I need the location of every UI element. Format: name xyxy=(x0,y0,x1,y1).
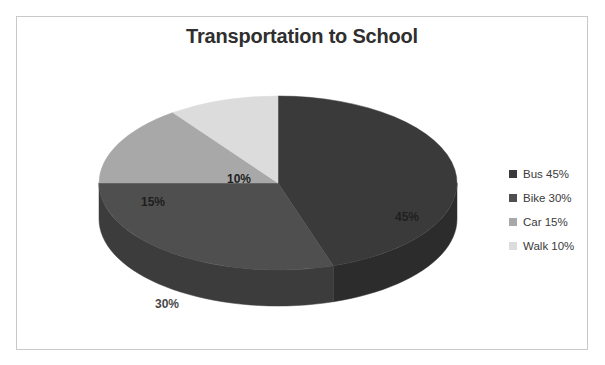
legend-swatch-icon xyxy=(509,218,517,226)
pie-label-car: 15% xyxy=(141,195,165,209)
pie-label-bike: 30% xyxy=(155,297,179,311)
legend-item-1[interactable]: Bike 30% xyxy=(509,186,605,210)
legend-item-label: Walk 10% xyxy=(523,240,574,252)
legend-item-2[interactable]: Car 15% xyxy=(509,210,605,234)
legend-item-3[interactable]: Walk 10% xyxy=(509,234,605,258)
pie-chart-plot-area[interactable]: 45%30%15%10% xyxy=(17,67,497,337)
chart-frame: Transportation to School 45%30%15%10% Bu… xyxy=(16,16,588,350)
chart-legend[interactable]: Bus 45%Bike 30%Car 15%Walk 10% xyxy=(509,162,605,258)
legend-item-label: Car 15% xyxy=(523,216,568,228)
pie-chart-svg[interactable] xyxy=(17,67,497,337)
legend-swatch-icon xyxy=(509,170,517,178)
legend-swatch-icon xyxy=(509,242,517,250)
chart-title: Transportation to School xyxy=(17,25,587,48)
pie-label-walk: 10% xyxy=(227,172,251,186)
legend-item-label: Bike 30% xyxy=(523,192,572,204)
legend-item-label: Bus 45% xyxy=(523,168,569,180)
legend-item-0[interactable]: Bus 45% xyxy=(509,162,605,186)
pie-label-bus: 45% xyxy=(395,210,419,224)
scan-artifact-top-text: · · · · · xyxy=(0,0,605,11)
legend-swatch-icon xyxy=(509,194,517,202)
